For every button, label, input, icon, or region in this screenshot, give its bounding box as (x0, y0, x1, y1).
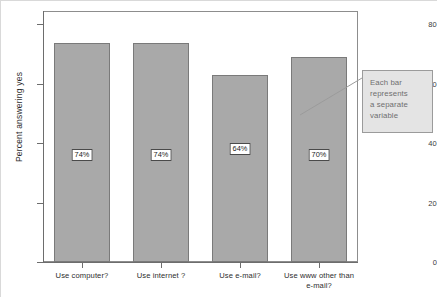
annotation-callout: Each bar represents a separate variable (362, 70, 433, 133)
chart-figure: Percent answering yes 020406080 74%74%64… (0, 0, 437, 297)
y-tick-label-20: 20 (409, 199, 437, 208)
bar-value-label-3: 64% (230, 143, 251, 155)
page-edge-top (0, 0, 437, 1)
bar-value-label-4: 70% (309, 149, 330, 161)
bar-value-label-1: 74% (72, 149, 93, 161)
y-tick-mark-20 (37, 203, 43, 204)
x-axis-line (43, 262, 358, 263)
x-tick-mark-1 (82, 263, 83, 268)
page-edge-left (0, 0, 1, 297)
y-tick-mark-0 (37, 262, 43, 263)
y-axis-line (43, 11, 44, 262)
y-tick-mark-80 (37, 24, 43, 25)
y-axis-title: Percent answering yes (14, 42, 24, 192)
y-tick-label-0: 0 (409, 258, 437, 267)
x-tick-mark-2 (161, 263, 162, 268)
y-tick-mark-60 (37, 84, 43, 85)
y-tick-label-40: 40 (409, 139, 437, 148)
y-tick-label-80: 80 (409, 20, 437, 29)
x-tick-mark-3 (240, 263, 241, 268)
bar-value-label-2: 74% (151, 149, 172, 161)
annotation-callout-text: Each bar represents a separate variable (370, 77, 426, 121)
x-tick-mark-4 (319, 263, 320, 268)
x-tick-label-4: Use www other than e-mail? (264, 271, 374, 290)
bar-3 (212, 75, 268, 262)
y-tick-mark-40 (37, 143, 43, 144)
